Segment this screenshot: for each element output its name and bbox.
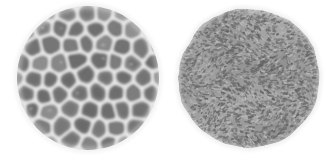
figure-plate xyxy=(0,0,326,155)
right-specimen-panel xyxy=(0,0,326,155)
left-specimen-panel xyxy=(0,0,326,155)
right-specimen-canvas xyxy=(0,0,326,155)
left-specimen-canvas xyxy=(0,0,326,155)
